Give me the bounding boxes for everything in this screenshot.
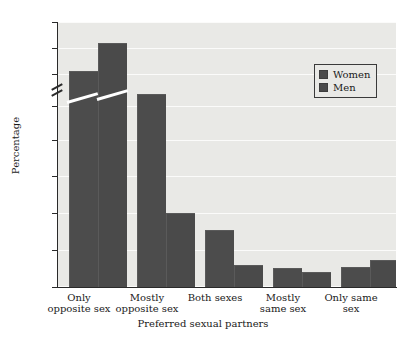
bar-women-only-same-sex [341, 267, 370, 287]
x-axis-title: Preferred sexual partners [0, 318, 406, 329]
x-category-label-4: Only same sex [301, 292, 401, 314]
gridline [57, 22, 396, 23]
bar-women-mostly-opposite-sex [137, 94, 166, 287]
bar-women-only-opposite-sex [69, 71, 98, 287]
plot-area [57, 22, 396, 287]
bar-women-mostly-same-sex [273, 268, 302, 287]
bar-men-mostly-opposite-sex [166, 213, 195, 287]
y-tick [52, 106, 57, 107]
legend: Women Men [314, 64, 377, 98]
y-tick [52, 22, 57, 23]
y-tick [52, 74, 57, 75]
legend-label-women: Women [333, 70, 370, 80]
y-tick [52, 176, 57, 177]
bar-men-both-sexes [234, 265, 263, 287]
legend-swatch-icon [319, 83, 328, 92]
y-axis-line [57, 22, 58, 288]
legend-swatch-icon [319, 70, 328, 79]
y-axis-title: Percentage [10, 91, 21, 201]
bar-men-mostly-same-sex [302, 272, 331, 287]
y-tick [52, 48, 57, 49]
legend-label-men: Men [333, 83, 356, 93]
y-tick [52, 250, 57, 251]
legend-item-men: Men [319, 81, 370, 94]
x-axis-line [57, 287, 397, 288]
y-tick [52, 287, 57, 288]
bar-men-only-same-sex [370, 260, 396, 287]
y-tick [52, 213, 57, 214]
bar-men-only-opposite-sex [98, 43, 127, 287]
y-tick [52, 140, 57, 141]
legend-item-women: Women [319, 68, 370, 81]
bar-women-both-sexes [205, 230, 234, 287]
bar-chart: 100 90 80 10 8 6 4 2 0 Percentage Only o… [0, 0, 406, 357]
